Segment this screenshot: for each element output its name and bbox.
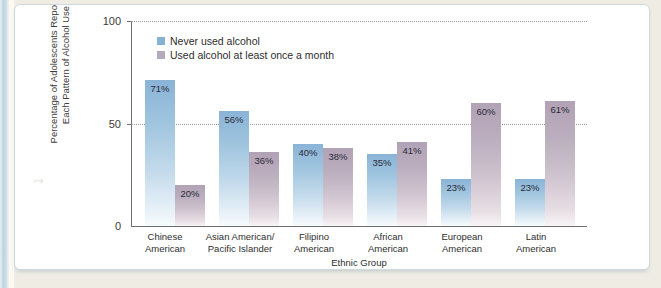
bar-group-asian-american-pacific-islander: 56% 36% [219,21,283,226]
bar-never-used-asian-american-pacific-islander: 56% [219,111,249,226]
bar-group-latin-american: 23% 61% [515,21,579,226]
bar-value-used-monthly-african-american: 41% [397,145,427,156]
x-axis-line [131,226,587,227]
bar-value-never-used-african-american: 35% [367,157,397,168]
bar-used-monthly-chinese-american: 20% [175,185,205,226]
bar-value-used-monthly-european-american: 60% [471,106,501,117]
y-tick-label-100: 100 [81,15,121,27]
y-tick-label-50: 50 [81,118,121,130]
bar-never-used-latin-american: 23% [515,179,545,226]
bar-used-monthly-asian-american-pacific-islander: 36% [249,152,279,226]
y-tick-mark-50 [127,124,131,125]
bar-value-never-used-european-american: 23% [441,182,471,193]
x-category-label-asian-american-pacific-islander: Asian American/ Pacific Islander [195,231,285,254]
bar-used-monthly-african-american: 41% [397,142,427,226]
bar-value-never-used-chinese-american: 71% [145,83,175,94]
x-category-label-european-american: European American [421,231,503,254]
bar-chart: Percentage of Adolescents Reporting Each… [15,5,649,269]
x-category-label-latin-american: Latin American [495,231,577,254]
bar-value-never-used-filipino-american: 40% [293,147,323,158]
x-category-label-filipino-american: Filipino American [273,231,355,254]
y-tick-mark-100 [127,21,131,22]
bar-group-european-american: 23% 60% [441,21,505,226]
x-axis-title: Ethnic Group [131,257,587,268]
bar-never-used-african-american: 35% [367,154,397,226]
bar-never-used-filipino-american: 40% [293,144,323,226]
bar-group-african-american: 35% 41% [367,21,431,226]
bar-never-used-european-american: 23% [441,179,471,226]
bar-value-used-monthly-filipino-american: 38% [323,151,353,162]
y-tick-label-0: 0 [81,220,121,232]
bar-never-used-chinese-american: 71% [145,80,175,226]
x-category-label-african-american: African American [347,231,429,254]
bar-used-monthly-latin-american: 61% [545,101,575,226]
bar-value-used-monthly-chinese-american: 20% [175,188,205,199]
bar-value-never-used-asian-american-pacific-islander: 56% [219,114,249,125]
bar-used-monthly-filipino-american: 38% [323,148,353,226]
page-edge-stripe [0,0,9,288]
y-axis-title: Percentage of Adolescents Reporting Each… [48,4,72,170]
plot-area: Never used alcohol Used alcohol at least… [131,21,587,226]
bar-group-filipino-american: 40% 38% [293,21,357,226]
figure-panel: ⤳ Percentage of Adolescents Reporting Ea… [14,4,650,270]
bar-value-never-used-latin-american: 23% [515,182,545,193]
bar-value-used-monthly-latin-american: 61% [545,104,575,115]
bar-used-monthly-european-american: 60% [471,103,501,226]
bar-group-chinese-american: 71% 20% [145,21,209,226]
scanned-page: ⤳ Percentage of Adolescents Reporting Ea… [0,0,661,288]
bar-value-used-monthly-asian-american-pacific-islander: 36% [249,155,279,166]
